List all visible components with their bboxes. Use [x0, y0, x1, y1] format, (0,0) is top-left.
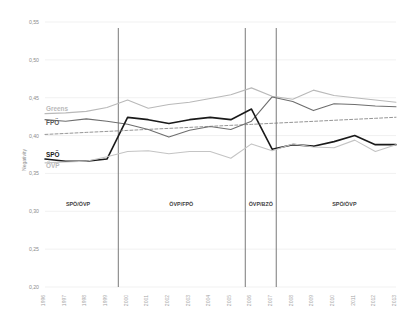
x-tick-label: 2008 [288, 295, 294, 306]
x-tick-label: 2013 [391, 295, 397, 306]
x-tick-label: 2011 [350, 295, 356, 306]
series-label-greens: Greens [46, 105, 68, 112]
x-tick-label: 2000 [123, 295, 129, 306]
x-tick-label: 2006 [246, 295, 252, 306]
x-tick-label: 1998 [81, 295, 87, 306]
x-tick-label: 2003 [185, 295, 191, 306]
x-tick-label: 2010 [329, 295, 335, 306]
y-tick-label: 0,30 [29, 208, 39, 214]
y-tick-label: 0,50 [29, 57, 39, 63]
period-label: SPÖ/ÖVP [66, 201, 91, 207]
x-tick-label: 1996 [40, 295, 46, 306]
x-tick-label: 2007 [267, 295, 273, 306]
x-tick-label: 1997 [61, 295, 67, 306]
x-tick-label: 2002 [164, 295, 170, 306]
series-label-vp: ÖVP [46, 161, 60, 169]
x-tick-label: 1999 [102, 295, 108, 306]
y-tick-label: 0,45 [29, 95, 39, 101]
y-tick-label: 0,35 [29, 170, 39, 176]
y-tick-label: 0,25 [29, 246, 39, 252]
x-tick-label: 2012 [370, 295, 376, 306]
chart-canvas: 0,550,500,450,400,350,300,250,20 1996199… [0, 0, 407, 324]
y-tick-label: 0,55 [29, 19, 39, 25]
y-tick-label: 0,40 [29, 133, 39, 139]
x-tick-label: 2004 [205, 295, 211, 306]
series-label-fp: FPÖ [46, 118, 59, 126]
x-tick-label: 2005 [226, 295, 232, 306]
negativity-line-chart: 0,550,500,450,400,350,300,250,20 1996199… [0, 0, 407, 324]
period-label: ÖVP/BZÖ [249, 201, 273, 207]
period-label: ÖVP/FPÖ [169, 201, 193, 207]
y-tick-label: 0,20 [29, 284, 39, 290]
x-tick-label: 2001 [143, 295, 149, 306]
series-label-sp: SPÖ [46, 150, 60, 158]
y-axis-title: Negativity [21, 149, 27, 171]
x-tick-label: 2009 [308, 295, 314, 306]
period-label: SPÖ/ÖVP [332, 201, 357, 207]
